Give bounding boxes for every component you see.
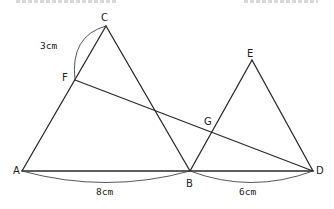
measurement-AB: 8cm [96, 186, 113, 197]
segment-FD [75, 80, 313, 171]
segment-AC [22, 26, 106, 171]
segment-CB [106, 26, 190, 171]
segment-BE [190, 60, 252, 171]
point-label-G: G [204, 116, 212, 127]
arc-BD [190, 171, 313, 183]
point-label-F: F [62, 72, 68, 83]
point-label-B: B [186, 178, 193, 189]
geometry-figure: A B C D E F G 3cm 8cm 6cm [0, 0, 334, 209]
point-label-D: D [316, 165, 324, 176]
measurement-BD: 6cm [239, 186, 256, 197]
segment-ED [252, 60, 313, 171]
point-label-E: E [247, 48, 253, 59]
arc-AB [22, 171, 190, 183]
point-label-C: C [101, 12, 108, 23]
measurement-CF: 3cm [40, 40, 57, 51]
point-label-A: A [13, 165, 20, 176]
